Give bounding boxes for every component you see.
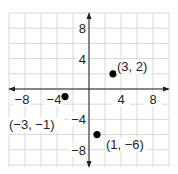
x-tick-labels: −8−448 <box>13 92 162 107</box>
point-marker <box>109 70 116 77</box>
y-tick-label: 4 <box>79 52 86 67</box>
y-tick-label: −4 <box>71 112 86 127</box>
data-point: (3, 2) <box>109 59 152 78</box>
point-label: (1, −6) <box>106 137 144 152</box>
x-tick-label: −8 <box>15 92 30 107</box>
point-label: (−3, −1) <box>9 117 55 132</box>
y-tick-label: 8 <box>79 21 86 36</box>
y-tick-label: −8 <box>71 143 86 158</box>
point-marker <box>61 93 68 100</box>
coordinate-plane: −8−448 84−4−8 (3, 2)(−3, −1)(1, −6) <box>0 0 178 174</box>
x-tick-label: 4 <box>117 92 124 107</box>
point-marker <box>93 131 100 138</box>
point-label: (3, 2) <box>117 59 147 74</box>
x-tick-label: −4 <box>47 92 62 107</box>
x-tick-label: 8 <box>149 92 156 107</box>
data-point: (1, −6) <box>93 131 147 152</box>
